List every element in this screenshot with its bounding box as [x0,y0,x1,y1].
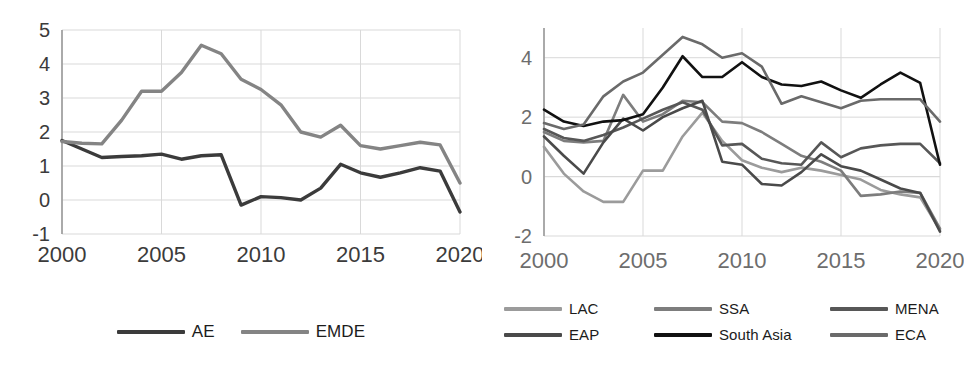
legend-label: EMDE [316,322,366,342]
legend-swatch-icon [830,307,888,311]
legend-swatch-icon [504,307,562,311]
y-tick-label: 2 [39,121,50,143]
right-chart-legend: LACSSAMENAEAPSouth AsiaECA [482,300,964,343]
legend-label: EAP [569,326,599,343]
legend-label: South Asia [719,326,792,343]
x-tick-label: 2010 [718,248,767,273]
legend-label: AE [192,322,215,342]
legend-swatch-icon [504,333,562,337]
y-tick-label: 0 [521,166,532,188]
x-tick-label: 2005 [137,242,186,267]
x-tick-label: 2010 [237,242,286,267]
x-tick-label: 2005 [619,248,668,273]
x-tick-label: 2020 [436,242,482,267]
legend-swatch-icon [654,307,712,311]
x-tick-label: 2000 [38,242,87,267]
legend-item-eca[interactable]: ECA [830,326,964,343]
legend-item-ssa[interactable]: SSA [654,300,830,317]
y-tick-label: 4 [521,47,532,69]
legend-item-eap[interactable]: EAP [504,326,654,343]
y-tick-label: 0 [39,189,50,211]
left-chart-panel: -101234520002005201020152020 AEEMDE [0,0,482,370]
legend-item-emde[interactable]: EMDE [241,322,366,342]
legend-label: SSA [719,300,749,317]
legend-swatch-icon [241,330,309,334]
right-chart-panel: -202420002005201020152020 LACSSAMENAEAPS… [482,0,964,370]
chart-figure: -101234520002005201020152020 AEEMDE -202… [0,0,964,370]
y-tick-label: 5 [39,19,50,41]
y-tick-label: 3 [39,87,50,109]
x-tick-label: 2015 [336,242,385,267]
right-chart-svg: -202420002005201020152020 [482,0,964,300]
legend-label: ECA [895,326,926,343]
x-tick-label: 2015 [817,248,866,273]
legend-swatch-icon [117,330,185,334]
legend-label: LAC [569,300,598,317]
legend-item-south-asia[interactable]: South Asia [654,326,830,343]
left-chart-svg: -101234520002005201020152020 [0,0,482,300]
y-tick-label: 2 [521,106,532,128]
legend-swatch-icon [654,333,712,337]
right-plot-area: -202420002005201020152020 [482,0,964,300]
legend-label: MENA [895,300,939,317]
legend-item-mena[interactable]: MENA [830,300,964,317]
y-tick-label: 1 [39,155,50,177]
x-tick-label: 2000 [520,248,569,273]
left-plot-area: -101234520002005201020152020 [0,0,482,300]
y-tick-label: 4 [39,53,50,75]
legend-item-ae[interactable]: AE [117,322,215,342]
legend-swatch-icon [830,333,888,337]
y-tick-label: -2 [514,225,532,247]
left-chart-legend: AEEMDE [0,322,482,342]
legend-item-lac[interactable]: LAC [504,300,654,317]
x-tick-label: 2020 [916,248,964,273]
